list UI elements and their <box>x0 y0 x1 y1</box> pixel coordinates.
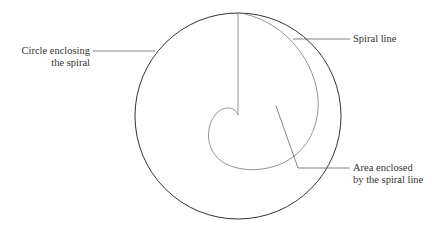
area-label-line2: by the spiral line <box>353 174 423 186</box>
circle-label: Circle enclosing the spiral <box>10 45 90 69</box>
area-label-line1: Area enclosed <box>353 162 423 174</box>
spiral-line <box>209 14 319 170</box>
spiral-label: Spiral line <box>353 33 396 45</box>
circle-label-line2: the spiral <box>10 57 90 69</box>
circle-label-line1: Circle enclosing <box>10 45 90 57</box>
area-label: Area enclosed by the spiral line <box>353 162 423 186</box>
